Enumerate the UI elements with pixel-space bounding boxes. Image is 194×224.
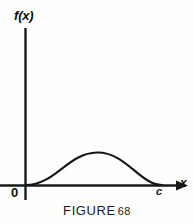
- function-curve: [26, 152, 162, 185]
- y-axis-label: f(x): [14, 9, 33, 22]
- figure-graph: [0, 0, 194, 224]
- x-point-c-label: c: [156, 186, 162, 197]
- figure-caption-number: 68: [118, 205, 131, 217]
- x-axis-label: x: [180, 177, 187, 189]
- origin-label: 0: [11, 186, 18, 199]
- figure-panel: f(x) 0 c x FIGURE68: [0, 0, 194, 224]
- figure-caption-text: FIGURE: [63, 203, 116, 218]
- figure-caption: FIGURE68: [0, 203, 194, 218]
